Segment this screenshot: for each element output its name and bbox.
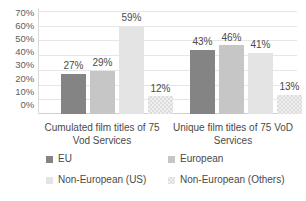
y-axis: 70% 60% 50% 40% 30% 20% 10% 0% [0,8,34,120]
bar-value-label: 59% [111,13,152,23]
y-axis-tick: 10% [0,87,34,97]
legend-swatch-icon [46,156,53,163]
x-axis: Cumulated film titles of 75 Vod Services… [38,121,296,151]
bar-g1-s2 [119,26,144,115]
bar-g1-s1 [90,71,115,115]
y-axis-tick: 40% [0,47,34,57]
legend-swatch-icon [168,177,175,184]
bar-g1-s0 [61,74,86,115]
bar-g2-s1 [219,45,244,114]
legend-swatch-icon [46,177,53,184]
y-axis-tick: 20% [0,74,34,84]
legend-item-non-european-others[interactable]: Non-European (Others) [168,175,285,185]
y-axis-tick: 30% [0,60,34,70]
bar-value-label: 13% [269,82,306,92]
bar-g2-s3 [277,95,302,115]
bar-value-label: 29% [82,58,123,68]
legend-label: Non-European (US) [58,175,146,185]
bars-layer: 27% 29% 59% 12% 43% 46% 41% 13% [39,8,297,114]
legend-item-eu[interactable]: EU [46,154,72,164]
bar-chart: 70% 60% 50% 40% 30% 20% 10% 0% 27% 29% [0,0,306,201]
y-axis-tick: 0% [0,100,34,110]
legend-swatch-icon [168,156,175,163]
y-axis-tick: 50% [0,34,34,44]
bar-value-label: 12% [140,84,181,94]
legend-item-non-european-us[interactable]: Non-European (US) [46,175,146,185]
y-axis-tick: 60% [0,21,34,31]
legend-label: EU [58,154,72,164]
plot-wrapper: 70% 60% 50% 40% 30% 20% 10% 0% 27% 29% [0,8,306,120]
x-axis-category-label: Cumulated film titles of 75 Vod Services [36,121,168,147]
legend-label: Non-European (Others) [180,175,285,185]
plot-area: 27% 29% 59% 12% 43% 46% 41% 13% [38,8,297,114]
bar-value-label: 41% [240,40,281,50]
bar-g2-s0 [190,50,215,115]
x-axis-category-label: Unique film titles of 75 VoD Services [167,121,299,147]
legend-item-european[interactable]: European [168,154,223,164]
legend: EU European Non-European (US) Non-Europe… [46,154,296,196]
legend-label: European [180,154,223,164]
bar-g1-s3 [148,96,173,114]
y-axis-tick: 70% [0,8,34,18]
